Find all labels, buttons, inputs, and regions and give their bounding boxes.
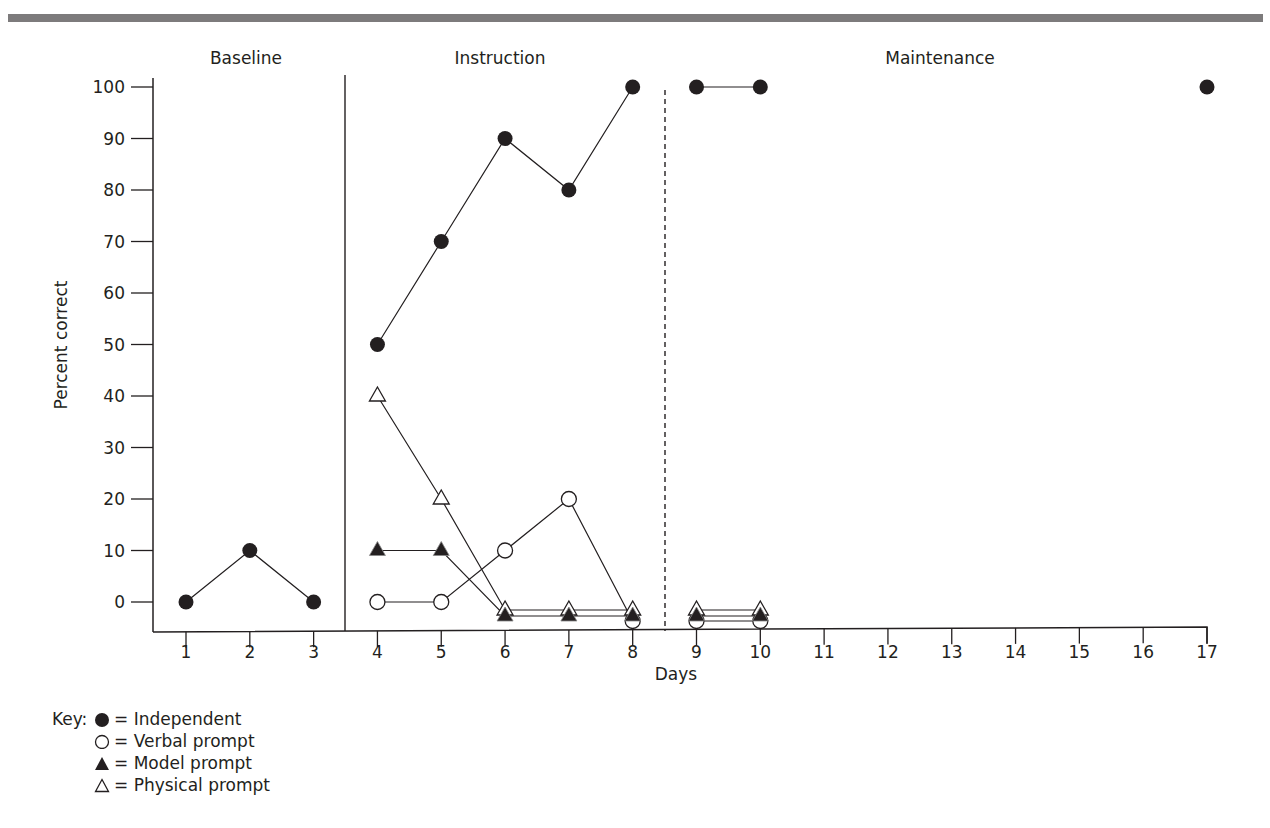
y-tick-label: 50 xyxy=(103,335,125,355)
open-circle-icon xyxy=(94,733,110,749)
y-axis-title: Percent correct xyxy=(51,280,71,409)
y-tick-label: 90 xyxy=(103,129,125,149)
data-point-verbal-prompt xyxy=(498,543,513,558)
data-point-independent xyxy=(498,131,513,146)
series-line-physical-prompt xyxy=(377,396,632,610)
series-line-independent xyxy=(377,87,632,345)
data-point-independent xyxy=(242,543,257,558)
x-tick-label: 14 xyxy=(1005,642,1027,662)
y-tick-label: 10 xyxy=(103,541,125,561)
y-tick-label: 70 xyxy=(103,232,125,252)
legend-item-independent: Key: = Independent xyxy=(52,708,270,730)
legend-label: = Physical prompt xyxy=(114,774,270,796)
data-point-independent xyxy=(179,595,194,610)
data-point-independent xyxy=(753,80,768,95)
y-tick-label: 20 xyxy=(103,489,125,509)
x-tick-label: 5 xyxy=(436,642,447,662)
x-tick-label: 9 xyxy=(691,642,702,662)
legend-label: = Independent xyxy=(114,708,241,730)
data-point-model-prompt xyxy=(433,542,449,556)
x-tick-label: 4 xyxy=(372,642,383,662)
x-tick-label: 15 xyxy=(1069,642,1091,662)
data-point-independent xyxy=(561,183,576,198)
data-point-physical-prompt xyxy=(369,387,385,401)
data-point-verbal-prompt xyxy=(370,595,385,610)
data-point-independent xyxy=(1200,80,1215,95)
y-tick-label: 100 xyxy=(93,77,125,97)
data-point-verbal-prompt xyxy=(434,595,449,610)
x-tick-label: 7 xyxy=(563,642,574,662)
data-point-independent xyxy=(625,80,640,95)
legend-item-physical-prompt: = Physical prompt xyxy=(52,774,270,796)
x-tick-label: 1 xyxy=(181,642,192,662)
x-tick-label: 17 xyxy=(1196,642,1218,662)
data-point-independent xyxy=(434,234,449,249)
x-tick-label: 11 xyxy=(813,642,835,662)
data-point-independent xyxy=(370,337,385,352)
x-tick-label: 10 xyxy=(749,642,771,662)
legend-label: = Model prompt xyxy=(114,752,252,774)
data-point-model-prompt xyxy=(369,542,385,556)
x-tick-label: 6 xyxy=(500,642,511,662)
y-tick-label: 0 xyxy=(114,592,125,612)
x-tick-label: 3 xyxy=(308,642,319,662)
y-tick-label: 40 xyxy=(103,386,125,406)
x-tick-label: 8 xyxy=(627,642,638,662)
legend-item-verbal-prompt: = Verbal prompt xyxy=(52,730,270,752)
legend: Key: = Independent = Verbal prompt = Mod… xyxy=(52,708,270,796)
filled-circle-icon xyxy=(94,711,110,727)
line-chart: 0102030405060708090100123456789101112131… xyxy=(0,0,1270,700)
filled-triangle-icon xyxy=(94,755,110,771)
phase-label-maintenance: Maintenance xyxy=(885,48,994,68)
x-tick-label: 2 xyxy=(244,642,255,662)
phase-label-instruction: Instruction xyxy=(455,48,546,68)
x-tick-label: 12 xyxy=(877,642,899,662)
x-axis-title: Days xyxy=(655,664,698,684)
y-tick-label: 80 xyxy=(103,180,125,200)
data-point-independent xyxy=(306,595,321,610)
data-point-independent xyxy=(689,80,704,95)
legend-prefix: Key: xyxy=(52,708,94,730)
legend-label: = Verbal prompt xyxy=(114,730,255,752)
data-point-physical-prompt xyxy=(433,490,449,504)
x-tick-label: 16 xyxy=(1132,642,1154,662)
phase-label-baseline: Baseline xyxy=(210,48,282,68)
y-tick-label: 30 xyxy=(103,438,125,458)
y-tick-label: 60 xyxy=(103,283,125,303)
data-point-verbal-prompt xyxy=(561,492,576,507)
legend-item-model-prompt: = Model prompt xyxy=(52,752,270,774)
x-tick-label: 13 xyxy=(941,642,963,662)
series-line-independent xyxy=(186,551,314,603)
open-triangle-icon xyxy=(94,777,110,793)
